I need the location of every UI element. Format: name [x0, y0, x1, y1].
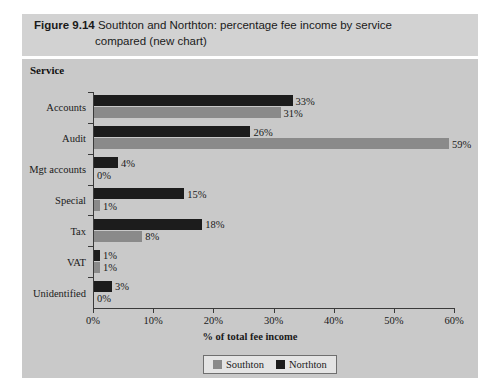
bar-value-southton-2: 0% [97, 169, 111, 180]
x-tick-label-0: 0% [86, 315, 100, 326]
category-label-special: Special [22, 195, 86, 206]
y-tick-6 [88, 277, 93, 278]
legend-swatch-southton-icon [213, 360, 222, 369]
x-tick-label-6: 60% [444, 315, 463, 326]
y-tick-2 [88, 154, 93, 155]
figure-title-text: Southton and Northton: percentage fee in… [98, 19, 392, 31]
bar-northton-0 [94, 95, 293, 106]
bar-northton-6 [94, 281, 112, 292]
x-tick-label-2: 20% [204, 315, 223, 326]
legend-item-southton: Southton [213, 359, 264, 370]
x-tick-label-4: 40% [324, 315, 343, 326]
bar-southton-1 [94, 138, 449, 149]
x-tick-1 [153, 308, 154, 313]
bar-value-southton-3: 1% [103, 200, 117, 211]
bar-value-northton-3: 15% [187, 188, 206, 199]
bar-value-northton-0: 33% [296, 95, 315, 106]
value-axis-title: % of total fee income [22, 331, 478, 342]
category-label-unidentified: Unidentified [22, 287, 86, 298]
bar-value-southton-0: 31% [284, 107, 303, 118]
figure-title-line-1: Figure 9.14 Southton and Northton: perce… [34, 19, 392, 31]
bar-value-southton-1: 59% [452, 138, 471, 149]
bar-value-northton-6: 3% [115, 281, 129, 292]
category-label-accounts: Accounts [22, 102, 86, 113]
bar-northton-5 [94, 250, 100, 261]
bar-northton-2 [94, 157, 118, 168]
x-tick-3 [274, 308, 275, 313]
bar-value-southton-6: 0% [97, 293, 111, 304]
bar-northton-1 [94, 126, 250, 137]
figure-number-label: Figure 9.14 [34, 19, 95, 31]
category-label-vat: VAT [22, 256, 86, 267]
figure-panel: Figure 9.14 Southton and Northton: perce… [22, 14, 478, 378]
bar-value-northton-4: 18% [205, 219, 224, 230]
category-label-audit: Audit [22, 133, 86, 144]
bar-northton-4 [94, 219, 202, 230]
x-tick-0 [93, 308, 94, 313]
y-tick-3 [88, 185, 93, 186]
y-tick-1 [88, 123, 93, 124]
category-label-tax: Tax [22, 225, 86, 236]
bar-value-northton-2: 4% [121, 157, 135, 168]
x-tick-6 [454, 308, 455, 313]
x-tick-5 [394, 308, 395, 313]
bar-southton-4 [94, 231, 142, 242]
bar-value-southton-4: 8% [145, 231, 159, 242]
bar-southton-0 [94, 107, 281, 118]
figure-title-line-2: compared (new chart) [95, 35, 207, 47]
x-tick-2 [213, 308, 214, 313]
bar-value-northton-1: 26% [253, 126, 272, 137]
bar-southton-3 [94, 200, 100, 211]
x-tick-label-1: 10% [144, 315, 163, 326]
figure-title-block: Figure 9.14 Southton and Northton: perce… [22, 14, 478, 56]
legend-swatch-northton-icon [276, 360, 285, 369]
bar-value-southton-5: 1% [103, 262, 117, 273]
x-tick-label-3: 30% [264, 315, 283, 326]
y-tick-0 [88, 92, 93, 93]
legend-label-northton: Northton [289, 359, 327, 370]
legend-item-northton: Northton [276, 359, 327, 370]
y-tick-4 [88, 215, 93, 216]
bar-value-northton-5: 1% [103, 250, 117, 261]
chart-body: Service 0%10%20%30%40%50%60% AccountsAud… [22, 59, 478, 378]
category-label-mgt-accounts: Mgt accounts [22, 164, 86, 175]
x-tick-label-5: 50% [384, 315, 403, 326]
bar-southton-5 [94, 262, 100, 273]
bar-northton-3 [94, 188, 184, 199]
x-tick-4 [334, 308, 335, 313]
legend-label-southton: Southton [226, 359, 264, 370]
y-tick-5 [88, 246, 93, 247]
chart-legend: Southton Northton [203, 355, 337, 374]
plot-area: 0%10%20%30%40%50%60% AccountsAuditMgt ac… [22, 59, 478, 334]
